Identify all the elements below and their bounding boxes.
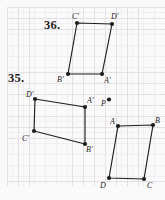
parallelogram-35-preimage-dot-c [142, 177, 146, 181]
point-p-label-p: P [100, 99, 106, 108]
parallelogram-35-preimage-label-b: B [155, 116, 160, 125]
worksheet-page: C′D′A′B′D′A′B′C′ABCDP 36. 35. [0, 0, 165, 200]
parallelogram-35-image-label-b-prime: B′ [86, 145, 93, 154]
parallelogram-36-dot-c-prime [75, 21, 79, 25]
parallelogram-36-label-b-prime: B′ [57, 75, 64, 84]
parallelogram-35-preimage-label-a: A [109, 117, 115, 126]
parallelogram-35-image-label-c-prime: C′ [22, 134, 29, 143]
parallelogram-35-preimage-dot-d [107, 176, 111, 180]
parallelogram-35-image-label-a-prime: A′ [86, 96, 94, 105]
parallelogram-35-image-dot-c-prime [32, 129, 36, 133]
parallelogram-35-preimage-outline [109, 125, 153, 179]
parallelogram-35-preimage-label-d: D [99, 181, 106, 190]
geometry-diagram: C′D′A′B′D′A′B′C′ABCDP [0, 0, 165, 200]
problem-number-35: 35. [8, 72, 25, 85]
parallelogram-35-image-label-d-prime: D′ [25, 90, 34, 99]
parallelogram-36-label-c-prime: C′ [72, 12, 79, 21]
parallelogram-36-label-d-prime: D′ [110, 12, 119, 21]
parallelogram-36-dot-b-prime [66, 72, 70, 76]
parallelogram-35-image-dot-a-prime [83, 105, 87, 109]
parallelogram-35-image-outline [34, 99, 85, 144]
parallelogram-35-preimage-label-c: C [147, 181, 153, 190]
problem-number-36: 36. [44, 19, 61, 32]
parallelogram-36-dot-d-prime [110, 22, 114, 26]
parallelogram-35-preimage-dot-a [116, 124, 120, 128]
parallelogram-36-label-a-prime: A′ [103, 76, 111, 85]
point-p-dot-p [107, 97, 111, 101]
parallelogram-36-outline [68, 23, 112, 74]
